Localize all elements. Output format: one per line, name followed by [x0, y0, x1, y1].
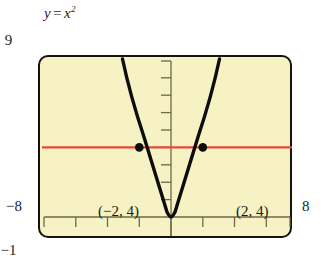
x-axis-max-label: 8	[302, 198, 310, 215]
equation-base: x	[64, 5, 71, 21]
point-label-right: (2, 4)	[236, 203, 269, 220]
intersection-point-left	[135, 143, 144, 152]
plot-area: (−2, 4) (2, 4)	[38, 55, 292, 238]
equation-exponent: 2	[71, 4, 76, 14]
intersection-point-right	[199, 143, 208, 152]
point-label-left: (−2, 4)	[98, 203, 139, 220]
y-axis-ticks	[161, 61, 171, 200]
equation-operator: =	[51, 5, 64, 21]
equation-lhs: y	[44, 5, 51, 21]
y-axis-max-label: 9	[0, 32, 323, 49]
x-axis-min-label: −8	[6, 198, 22, 215]
graph-figure: y=x2 9 −8 8 −1	[0, 0, 323, 272]
equation-label: y=x2	[44, 4, 76, 22]
y-axis-min-label: −1	[0, 242, 323, 259]
